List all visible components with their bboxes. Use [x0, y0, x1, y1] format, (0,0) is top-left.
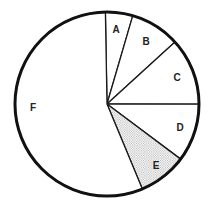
slice-label-a: A	[112, 24, 119, 35]
slice-label-b: B	[142, 36, 149, 47]
slice-label-f: F	[30, 102, 36, 113]
pie-chart: ABCDEF	[0, 0, 216, 207]
slice-label-d: D	[176, 122, 183, 133]
slice-label-c: C	[173, 72, 180, 83]
slice-label-e: E	[153, 160, 160, 171]
